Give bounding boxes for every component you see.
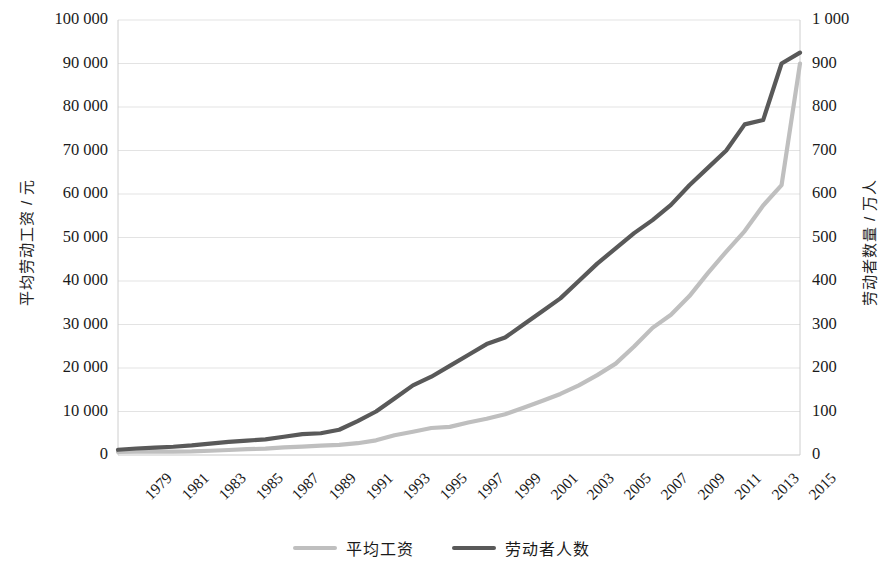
y-axis-right-tick: 900 (812, 55, 837, 72)
dual-axis-line-chart: 平均劳动工资 / 元 劳动者数量 / 万人 100 00090 00080 00… (0, 0, 883, 566)
y-axis-right-tick: 600 (812, 185, 837, 202)
y-axis-right-tick: 0 (812, 446, 820, 463)
legend-label: 平均工资 (346, 536, 414, 560)
y-axis-left-tick: 90 000 (12, 55, 108, 72)
y-axis-left-tick: 60 000 (12, 185, 108, 202)
y-axis-left-tick: 0 (12, 446, 108, 463)
legend-label: 劳动者人数 (505, 536, 590, 560)
y-axis-left-tick: 10 000 (12, 403, 108, 420)
y-axis-left-tick: 40 000 (12, 272, 108, 289)
y-axis-left-tick: 20 000 (12, 359, 108, 376)
data-lines (118, 53, 800, 452)
y-axis-right-tick: 100 (812, 403, 837, 420)
y-axis-right-tick: 500 (812, 229, 837, 246)
y-axis-right-tick: 800 (812, 98, 837, 115)
legend-item[interactable]: 劳动者人数 (452, 536, 590, 560)
y-axis-left-tick: 50 000 (12, 229, 108, 246)
legend-item[interactable]: 平均工资 (293, 536, 414, 560)
y-axis-right-tick: 300 (812, 316, 837, 333)
y-axis-right-tick: 1 000 (812, 11, 849, 28)
series-line (118, 64, 800, 452)
y-axis-right-tick: 700 (812, 142, 837, 159)
chart-legend: 平均工资劳动者人数 (0, 536, 883, 560)
series-line (118, 53, 800, 450)
legend-swatch (293, 546, 337, 550)
gridlines (118, 20, 800, 455)
y-axis-left-tick: 70 000 (12, 142, 108, 159)
legend-swatch (452, 546, 496, 550)
y-axis-left-tick: 100 000 (12, 11, 108, 28)
y-axis-right-title: 劳动者数量 / 万人 (858, 113, 879, 373)
y-axis-left-tick: 80 000 (12, 98, 108, 115)
y-axis-right-tick: 400 (812, 272, 837, 289)
y-axis-right-tick: 200 (812, 359, 837, 376)
y-axis-left-tick: 30 000 (12, 316, 108, 333)
